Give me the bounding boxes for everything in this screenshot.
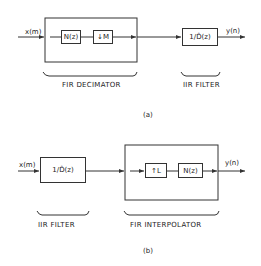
iir-filter-caption-b: IIR FILTER	[38, 222, 75, 229]
output-label-b: y(n)	[225, 160, 239, 167]
output-label-a: y(n)	[226, 28, 240, 35]
iir-filter-caption-a: IIR FILTER	[183, 82, 220, 89]
input-label-a: x(m)	[25, 29, 41, 36]
n-z-block-a: N(z)	[61, 30, 81, 44]
fir-decimator-caption: FIR DECIMATOR	[62, 82, 121, 89]
sub-label-a: (a)	[143, 112, 153, 119]
sub-label-b: (b)	[143, 248, 153, 255]
interpolator-block: ↑L	[145, 163, 167, 178]
iir-block-a: 1/D̂(z)	[182, 28, 218, 46]
decimator-block: ↓M	[93, 30, 113, 44]
n-z-block-b: N(z)	[178, 163, 203, 178]
fir-interpolator-caption: FIR INTERPOLATOR	[130, 222, 202, 229]
iir-block-b: 1/D̂(z)	[40, 157, 86, 183]
input-label-b: x(m)	[19, 162, 35, 169]
